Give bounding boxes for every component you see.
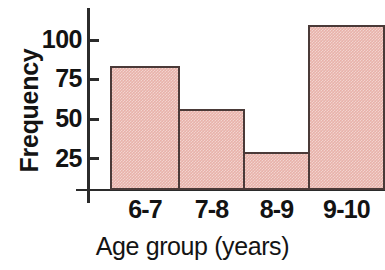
x-axis-tick-labels: 6-7 7-8 8-9 9-10 — [110, 196, 385, 228]
y-tick-label-75: 75 — [24, 66, 82, 91]
x-tick-label-8-9: 8-9 — [243, 196, 310, 224]
y-tick-mark-75 — [88, 78, 99, 81]
x-tick-label-9-10: 9-10 — [308, 196, 385, 224]
y-tick-mark-25 — [88, 157, 99, 160]
bar-9-10 — [308, 25, 385, 190]
x-axis-title: Age group (years) — [0, 232, 385, 261]
bar-7-8 — [178, 109, 245, 190]
y-tick-label-50: 50 — [24, 106, 82, 131]
y-tick-mark-100 — [88, 39, 99, 42]
y-axis-tick-labels: 100 75 50 25 — [24, 0, 82, 270]
bar-8-9 — [243, 152, 310, 190]
y-axis-line — [87, 8, 90, 203]
y-tick-label-100: 100 — [24, 27, 82, 52]
plot-area — [110, 8, 385, 190]
x-tick-label-7-8: 7-8 — [178, 196, 245, 224]
y-tick-label-25: 25 — [24, 146, 82, 171]
histogram-chart: Frequency 100 75 50 25 6-7 7-8 8-9 9-10 … — [0, 0, 385, 270]
bar-6-7 — [110, 66, 180, 190]
x-tick-label-6-7: 6-7 — [110, 196, 180, 224]
y-tick-mark-50 — [88, 118, 99, 121]
